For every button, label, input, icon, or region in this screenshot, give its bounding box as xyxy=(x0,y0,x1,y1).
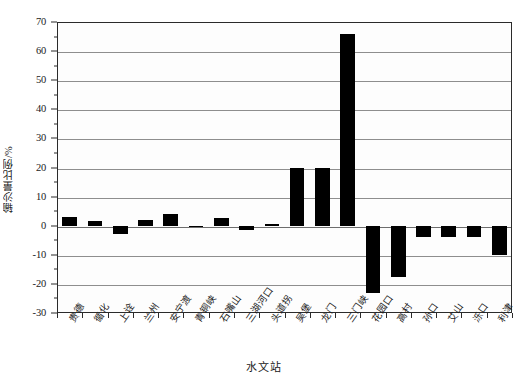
y-tick-label--30: -30 xyxy=(33,308,46,319)
gridline-50 xyxy=(58,81,511,82)
gridline-10 xyxy=(58,198,511,199)
y-tick-label-10: 10 xyxy=(36,191,46,202)
x-axis-labels: 贵德循化上诠兰州安宁渡青铜峡石嘴山三湖河口头道拐吴堡龙门三门峡花园口高村孙口艾山… xyxy=(57,318,512,362)
y-tick-label-70: 70 xyxy=(36,17,46,28)
y-tick-label-50: 50 xyxy=(36,75,46,86)
x-axis-title: 水文站 xyxy=(0,358,527,374)
bar-chart: 输沙量比例/% 706050403020100-10-20-30 贵德循化上诠兰… xyxy=(0,0,527,379)
gridline-60 xyxy=(58,52,511,53)
gridline-40 xyxy=(58,110,511,111)
y-tick-label-30: 30 xyxy=(36,133,46,144)
gridline-30 xyxy=(58,139,511,140)
x-tick xyxy=(512,313,513,318)
y-tick-label-0: 0 xyxy=(41,220,46,231)
y-tick-label-40: 40 xyxy=(36,104,46,115)
y-tick-label--10: -10 xyxy=(33,250,46,261)
gridline--20 xyxy=(58,285,511,286)
plot-area xyxy=(57,22,512,313)
y-tick-label-60: 60 xyxy=(36,46,46,57)
y-tick-label--20: -20 xyxy=(33,279,46,290)
gridline-0 xyxy=(58,227,511,228)
y-axis: 706050403020100-10-20-30 xyxy=(0,0,57,379)
gridline-20 xyxy=(58,169,511,170)
y-tick-label-20: 20 xyxy=(36,162,46,173)
gridline--10 xyxy=(58,256,511,257)
